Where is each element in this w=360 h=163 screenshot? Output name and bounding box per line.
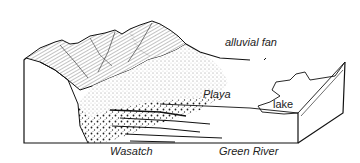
wasatch-label: Wasatch: [110, 145, 153, 157]
lake-label: lake: [273, 98, 293, 110]
green-river-label: Green River: [219, 145, 280, 157]
alluvial-fan-label: alluvial fan: [225, 36, 277, 48]
playa-label: Playa: [203, 88, 231, 100]
geologic-block-diagram: alluvial fan Playa lake Wasatch Green Ri…: [0, 0, 360, 163]
